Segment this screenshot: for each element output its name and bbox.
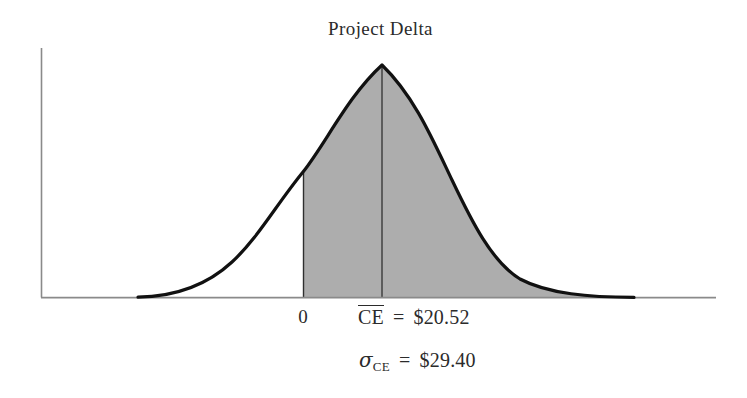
mean-equals-sign: = <box>393 306 404 328</box>
sigma-value: $29.40 <box>420 349 476 371</box>
mean-symbol: CE <box>358 305 384 328</box>
distribution-chart <box>0 0 747 398</box>
page-title-text: Project Delta <box>328 18 433 39</box>
page-title: Project Delta <box>0 18 747 40</box>
chart-figure: Project Delta 0 CE=$20.52 σCE=$29.40 <box>0 0 747 398</box>
mean-statistic: CE=$20.52 <box>358 305 470 329</box>
x-axis-tick-zero: 0 <box>283 306 323 328</box>
sigma-equals-sign: = <box>399 349 410 371</box>
sigma-statistic: σCE=$29.40 <box>359 348 476 375</box>
shaded-area-right-of-zero <box>145 65 630 298</box>
mean-value: $20.52 <box>413 306 469 328</box>
sigma-symbol: σ <box>359 348 373 372</box>
sigma-subscript: CE <box>373 359 390 374</box>
